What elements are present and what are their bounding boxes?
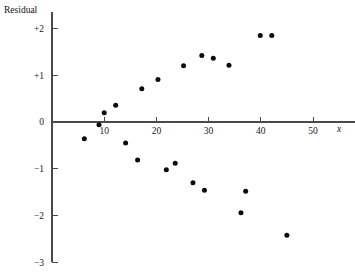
data-point	[190, 180, 195, 185]
y-tick-label: −3	[34, 258, 44, 268]
x-tick-label: 40	[256, 126, 266, 136]
data-point	[211, 56, 216, 61]
data-point	[258, 33, 263, 38]
data-point	[123, 141, 128, 146]
data-point	[226, 63, 231, 68]
data-point	[284, 233, 289, 238]
data-point	[113, 103, 118, 108]
residual-plot-figure: +2+10−1−2−3 1020304050 Residual x	[0, 0, 355, 274]
data-point	[202, 188, 207, 193]
scatter-plot-canvas: +2+10−1−2−3 1020304050 Residual x	[0, 0, 355, 274]
x-tick-label: 10	[99, 126, 109, 136]
data-point	[155, 77, 160, 82]
y-axis-ticks: +2+10−1−2−3	[34, 24, 58, 268]
data-point	[102, 110, 107, 115]
data-point	[181, 63, 186, 68]
data-point	[135, 157, 140, 162]
y-axis-group: +2+10−1−2−3	[34, 12, 58, 268]
data-point	[139, 86, 144, 91]
data-point	[82, 136, 87, 141]
y-axis-title: Residual	[4, 5, 38, 15]
data-point	[238, 210, 243, 215]
x-tick-label: 20	[152, 126, 162, 136]
y-tick-label: −1	[34, 164, 44, 174]
x-axis-title: x	[336, 124, 342, 134]
y-tick-label: 0	[39, 117, 44, 127]
data-point	[269, 33, 274, 38]
y-tick-label: −2	[34, 211, 44, 221]
data-point	[243, 189, 248, 194]
x-tick-label: 30	[204, 126, 214, 136]
x-tick-label: 50	[308, 126, 318, 136]
data-point	[96, 122, 101, 127]
data-point	[173, 161, 178, 166]
x-axis-ticks: 1020304050	[99, 117, 318, 136]
y-tick-label: +2	[34, 24, 44, 34]
data-point	[164, 167, 169, 172]
data-point	[199, 53, 204, 58]
y-tick-label: +1	[34, 71, 44, 81]
